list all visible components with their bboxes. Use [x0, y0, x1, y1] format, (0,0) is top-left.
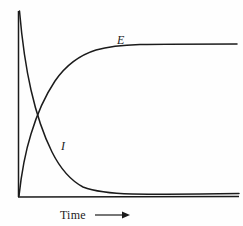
x-axis-caption: Time — [60, 206, 180, 224]
curve-label-E: E — [117, 34, 124, 46]
right-arrow-icon — [95, 210, 131, 220]
curve-E — [19, 44, 237, 196]
x-axis-caption-label: Time — [60, 208, 86, 223]
curve-label-I: I — [61, 140, 65, 152]
figure-container: E I Time — [0, 0, 243, 226]
curve-I — [20, 11, 240, 194]
horizontal-axis — [18, 197, 239, 198]
